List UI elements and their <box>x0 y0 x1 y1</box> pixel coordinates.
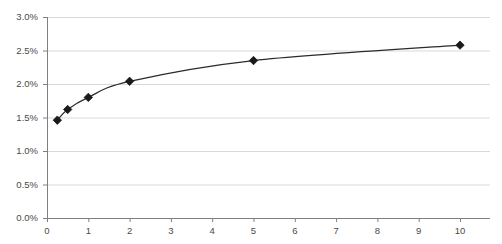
x-axis-tick-label: 3 <box>156 226 186 236</box>
x-axis-tick-label: 1 <box>73 226 103 236</box>
y-axis-tick-label: 3.0% <box>0 12 38 22</box>
x-axis-tick-label: 9 <box>404 226 434 236</box>
series-line <box>57 45 460 120</box>
x-axis-tick-label: 7 <box>321 226 351 236</box>
x-axis-tick-label: 0 <box>32 226 62 236</box>
y-axis-tick-label: 1.0% <box>0 146 38 156</box>
data-point-marker <box>249 56 257 64</box>
x-axis-tick-label: 5 <box>239 226 269 236</box>
chart-plot-area <box>0 0 502 244</box>
x-axis-tick-label: 2 <box>115 226 145 236</box>
x-axis-tick-label: 10 <box>445 226 475 236</box>
y-axis-tick-label: 1.5% <box>0 113 38 123</box>
data-point-marker <box>84 93 92 101</box>
chart-container: 0.0%0.5%1.0%1.5%2.0%2.5%3.0%012345678910 <box>0 0 502 244</box>
y-axis-tick-label: 0.5% <box>0 180 38 190</box>
data-point-marker <box>456 41 464 49</box>
y-axis-tick-label: 0.0% <box>0 213 38 223</box>
x-axis-tick-label: 6 <box>280 226 310 236</box>
x-axis-tick-label: 4 <box>197 226 227 236</box>
x-axis-tick-label: 8 <box>362 226 392 236</box>
y-axis-tick-label: 2.5% <box>0 46 38 56</box>
y-axis-tick-label: 2.0% <box>0 79 38 89</box>
